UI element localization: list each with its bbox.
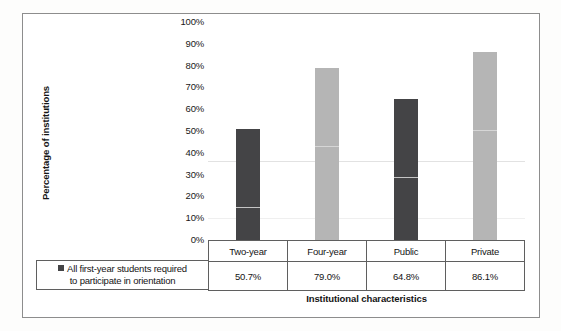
table-header-cell: Public	[367, 241, 446, 262]
table-value-row: 50.7%79.0%64.8%86.1%	[209, 262, 525, 291]
y-axis-tick-label: 40%	[160, 148, 204, 158]
bar	[236, 129, 260, 240]
y-axis-tick-label: 20%	[160, 191, 204, 201]
y-axis-tick-label: 50%	[160, 126, 204, 136]
y-axis-tick-labels: 100%90%80%70%60%50%40%30%20%10%0%	[160, 22, 204, 240]
y-axis-tick-label: 100%	[160, 17, 204, 27]
bar-chart-figure: Percentage of institutions 100%90%80%70%…	[0, 0, 561, 331]
bar	[315, 68, 339, 240]
table-value-cell: 79.0%	[288, 262, 367, 291]
y-axis-tick-label: 10%	[160, 213, 204, 223]
table-value-cell: 64.8%	[367, 262, 446, 291]
bar-fold-artifact	[394, 177, 418, 178]
bar	[473, 52, 497, 240]
table-value-cell: 86.1%	[446, 262, 525, 291]
bar-slot	[208, 22, 287, 240]
table-header-cell: Private	[446, 241, 525, 262]
table-value-cell: 50.7%	[209, 262, 288, 291]
data-table: Two-yearFour-yearPublicPrivate 50.7%79.0…	[208, 240, 525, 291]
bar-slot	[367, 22, 446, 240]
y-axis-tick-label: 0%	[160, 235, 204, 245]
bar-slot	[446, 22, 525, 240]
table-header-row: Two-yearFour-yearPublicPrivate	[209, 241, 525, 262]
bar	[394, 99, 418, 240]
y-axis-tick-label: 80%	[160, 61, 204, 71]
y-axis-tick-label: 60%	[160, 104, 204, 114]
legend-line-1: All first-year students required	[67, 263, 187, 274]
legend-swatch-icon	[58, 265, 64, 271]
x-axis-title: Institutional characteristics	[208, 293, 525, 304]
legend-line-2: to participate in orientation	[70, 275, 176, 286]
bar-slot	[287, 22, 366, 240]
bar-fold-artifact	[236, 207, 260, 208]
legend: All first-year students required to part…	[36, 260, 208, 290]
y-axis-title: Percentage of institutions	[40, 58, 54, 228]
y-axis-tick-label: 70%	[160, 82, 204, 92]
y-axis-tick-label: 90%	[160, 39, 204, 49]
bar-fold-artifact	[473, 130, 497, 131]
table-header-cell: Two-year	[209, 241, 288, 262]
plot-area	[208, 22, 525, 240]
legend-label: All first-year students required to part…	[54, 263, 191, 288]
table-header-cell: Four-year	[288, 241, 367, 262]
y-axis-tick-label: 30%	[160, 170, 204, 180]
bar-fold-artifact	[315, 146, 339, 147]
